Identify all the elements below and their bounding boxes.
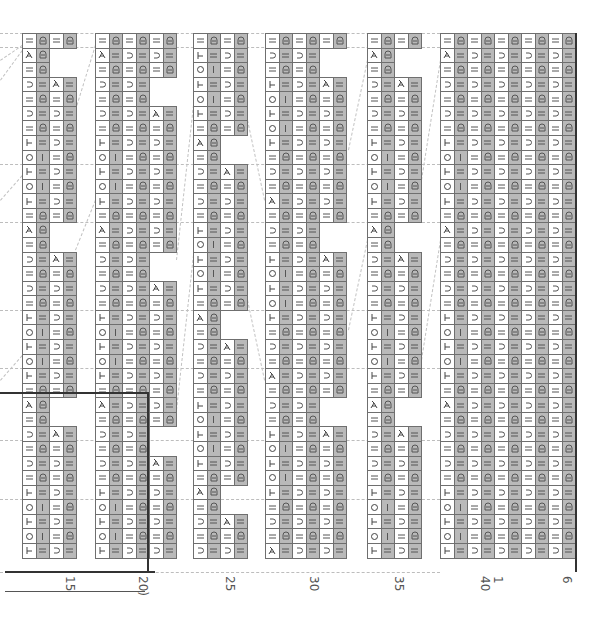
slip-icon [125, 371, 134, 380]
stitch-cell [306, 470, 321, 486]
stitch-cell [562, 470, 577, 486]
knit-icon [196, 153, 205, 162]
knit-icon [138, 517, 147, 526]
stitch-cell [562, 499, 577, 515]
stitch-cell [292, 208, 307, 224]
yarn-over-icon [98, 328, 107, 337]
stitch-cell [234, 164, 249, 180]
stitch-cell [49, 368, 64, 384]
knit-icon [138, 313, 147, 322]
knit-icon [125, 357, 134, 366]
stitch-cell [521, 368, 536, 384]
knit-icon [510, 80, 519, 89]
knit-icon [25, 36, 34, 45]
stitch-cell [36, 237, 51, 253]
stitch-cell [136, 222, 151, 238]
stitch-cell [136, 48, 151, 64]
stitch-cell [163, 295, 178, 311]
stitch-cell [163, 456, 178, 472]
purl-cluster-icon [564, 385, 574, 395]
knit-icon [456, 371, 465, 380]
knit-icon [335, 342, 344, 351]
knit-icon [483, 51, 492, 60]
slip-icon [322, 313, 331, 322]
stitch-cell [95, 62, 110, 78]
stitch-cell [265, 456, 280, 472]
stitch-cell [481, 91, 496, 107]
slip-icon [551, 459, 560, 468]
purl-cluster-icon [537, 473, 547, 483]
slip-icon [52, 284, 61, 293]
stitch-cell [279, 324, 294, 340]
stitch-cell [535, 266, 550, 282]
stitch-cell [122, 62, 137, 78]
knit-icon [165, 138, 174, 147]
stitch-cell [63, 441, 78, 457]
stitch-cell [408, 266, 423, 282]
purl-cluster-icon [410, 181, 420, 191]
stitch-cell [333, 208, 348, 224]
stitch-cell [36, 354, 51, 370]
knit-icon [25, 240, 34, 249]
twist-start-icon [268, 459, 277, 468]
stitch-cell [22, 91, 37, 107]
purl-cluster-icon [38, 415, 48, 425]
stitch-cell [333, 499, 348, 515]
stitch-cell [467, 426, 482, 442]
stitch-cell [63, 470, 78, 486]
stitch-cell [63, 252, 78, 268]
yarn-over-icon [98, 182, 107, 191]
stitch-cell [535, 441, 550, 457]
stitch-cell [454, 426, 469, 442]
purl-cluster-icon [65, 36, 75, 46]
knit-icon [281, 80, 290, 89]
stitch-cell [381, 62, 396, 78]
stitch-cell [367, 62, 382, 78]
stitch-cell [306, 48, 321, 64]
slip-icon [443, 459, 452, 468]
stitch-cell [521, 106, 536, 122]
slip-icon [152, 226, 161, 235]
twist-start-icon [370, 488, 379, 497]
decrease-icon [396, 79, 406, 89]
knit-icon [281, 255, 290, 264]
slip-icon [322, 167, 331, 176]
stitch-cell [149, 48, 164, 64]
stitch-cell [220, 179, 235, 195]
knit-icon [209, 517, 218, 526]
stitch-cell [149, 470, 164, 486]
purl-cluster-icon [410, 152, 420, 162]
twist-start-icon [268, 488, 277, 497]
knit-icon [268, 532, 277, 541]
bar-icon [38, 532, 47, 541]
twist-start-icon [196, 401, 205, 410]
slip-icon [470, 342, 479, 351]
knit-icon [125, 299, 134, 308]
stitch-cell [481, 339, 496, 355]
stitch-cell [333, 106, 348, 122]
stitch-cell [333, 120, 348, 136]
knit-icon [165, 167, 174, 176]
stitch-cell [109, 441, 124, 457]
stitch-cell [163, 33, 178, 49]
purl-cluster-icon [38, 211, 48, 221]
stitch-cell [49, 266, 64, 282]
stitch-cell [467, 266, 482, 282]
stitch-cell [220, 470, 235, 486]
stitch-cell [193, 48, 208, 64]
purl-cluster-icon [564, 356, 574, 366]
stitch-cell [408, 485, 423, 501]
stitch-cell [122, 252, 137, 268]
knit-icon [38, 167, 47, 176]
knit-icon [38, 80, 47, 89]
stitch-cell [234, 339, 249, 355]
decrease-icon [222, 517, 232, 527]
knit-icon [443, 299, 452, 308]
stitch-cell [381, 514, 396, 530]
stitch-cell [36, 33, 51, 49]
stitch-cell [207, 48, 222, 64]
knit-icon [335, 517, 344, 526]
stitch-cell [220, 106, 235, 122]
stitch-cell [440, 208, 455, 224]
knit-icon [497, 65, 506, 74]
